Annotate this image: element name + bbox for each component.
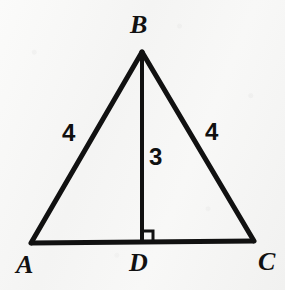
triangle-diagram — [0, 0, 285, 290]
vertex-label-a: A — [16, 252, 33, 278]
vertex-label-b: B — [130, 12, 147, 38]
measure-label-bd: 3 — [149, 145, 162, 169]
vertex-label-c: C — [258, 249, 275, 275]
measure-label-ab: 4 — [62, 121, 75, 145]
vertex-label-d: D — [129, 250, 148, 276]
measure-label-bc: 4 — [205, 120, 218, 144]
segment-side-ab — [31, 52, 142, 243]
geometry-figure: B A D C 4 4 3 — [0, 0, 285, 290]
